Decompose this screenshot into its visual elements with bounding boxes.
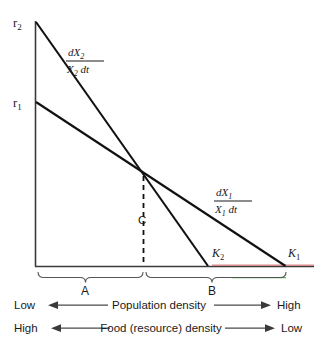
fraction-dx1-denominator: X1 dt [214, 203, 238, 218]
fraction-dx2-denominator: X2 dt [66, 63, 90, 78]
fraction-label-dx1: dX1 X1 dt [214, 186, 252, 218]
scale-left-label-food: High [14, 322, 38, 334]
figure-root: r2 r1 dX2 X2 dt dX1 X1 dt C K2 K1 A B [0, 0, 318, 344]
label-r1: r1 [13, 96, 22, 112]
brace-a-path [38, 272, 143, 283]
scale-caption-population: Population density [112, 299, 206, 311]
brace-label-b: B [208, 284, 216, 298]
scale-row-population-density: Low Population density High [14, 299, 301, 311]
growth-line-dx1 [36, 102, 286, 266]
label-point-k2: K2 [211, 246, 224, 262]
fraction-label-dx2: dX2 X2 dt [66, 46, 104, 78]
scale-right-arrowhead-food [265, 324, 275, 332]
label-point-c: C [138, 214, 146, 226]
fraction-dx1-numerator: dX1 [216, 186, 232, 201]
label-point-k1: K1 [287, 246, 300, 262]
brace-b-path [146, 272, 286, 283]
scale-left-arrowhead-population [48, 301, 58, 309]
scale-left-label-population: Low [14, 299, 36, 311]
scale-right-label-food: Low [281, 322, 303, 334]
braces-group: A B [38, 272, 286, 298]
scale-row-food-density: High Food (resource) density Low [14, 322, 303, 334]
growth-line-dx2 [36, 22, 208, 266]
scale-caption-food: Food (resource) density [100, 322, 222, 334]
scale-right-arrowhead-population [261, 301, 271, 309]
growth-lines-group [36, 22, 286, 266]
growth-rate-diagram: r2 r1 dX2 X2 dt dX1 X1 dt C K2 K1 A B [0, 0, 318, 344]
brace-label-a: A [81, 284, 89, 298]
scale-right-label-population: High [277, 299, 301, 311]
scale-left-arrowhead-food [51, 324, 61, 332]
label-r2: r2 [13, 16, 22, 32]
fraction-dx2-numerator: dX2 [68, 46, 84, 61]
